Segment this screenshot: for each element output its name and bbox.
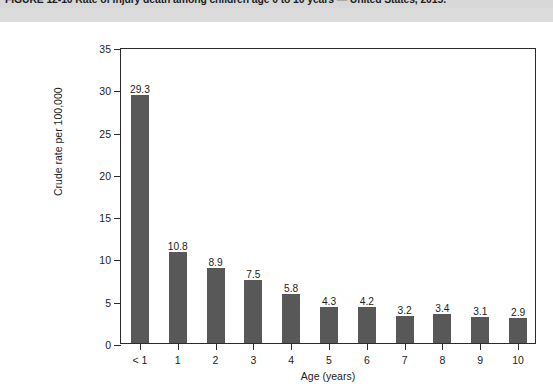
y-axis-tick bbox=[114, 260, 121, 261]
bar-value-label: 3.1 bbox=[473, 306, 487, 319]
x-axis-tick bbox=[367, 343, 368, 350]
y-axis-tick-label: 25 bbox=[99, 128, 111, 140]
bar-value-label: 3.2 bbox=[398, 305, 412, 318]
x-axis-tick bbox=[442, 343, 443, 350]
x-axis-tick bbox=[405, 343, 406, 350]
x-axis-title: Age (years) bbox=[120, 370, 536, 382]
figure-root: FIGURE 12-10 Rate of injury death among … bbox=[0, 0, 553, 389]
plot-frame: 0510152025303529.3< 110.818.927.535.844.… bbox=[120, 48, 536, 344]
y-axis-tick bbox=[114, 91, 121, 92]
bar-value-label: 3.4 bbox=[435, 303, 449, 316]
x-axis-tick-label: 9 bbox=[477, 354, 483, 366]
x-axis-tick bbox=[253, 343, 254, 350]
y-axis-tick bbox=[114, 303, 121, 304]
y-axis-tick bbox=[114, 49, 121, 50]
bar bbox=[207, 268, 225, 343]
bar bbox=[282, 294, 300, 343]
bar bbox=[244, 280, 262, 343]
x-axis-tick-label: 6 bbox=[364, 354, 370, 366]
x-axis-tick-label: 1 bbox=[175, 354, 181, 366]
y-axis-title: Crude rate per 100,000 bbox=[52, 87, 64, 196]
x-axis-tick bbox=[291, 343, 292, 350]
bar bbox=[169, 252, 187, 343]
bar bbox=[509, 318, 527, 343]
x-axis-tick-label: 5 bbox=[326, 354, 332, 366]
bar-value-label: 10.8 bbox=[168, 241, 188, 254]
bar-value-label: 8.9 bbox=[208, 257, 222, 270]
x-axis-tick-label: 10 bbox=[512, 354, 524, 366]
x-axis-tick-label: 7 bbox=[402, 354, 408, 366]
bar-value-label: 4.2 bbox=[360, 296, 374, 309]
bar bbox=[433, 314, 451, 343]
y-axis-tick-label: 0 bbox=[105, 339, 111, 351]
bar bbox=[396, 316, 414, 343]
y-axis-tick bbox=[114, 345, 121, 346]
x-axis-tick-label: 8 bbox=[440, 354, 446, 366]
figure-header-band: FIGURE 12-10 Rate of injury death among … bbox=[0, 0, 553, 22]
x-axis-tick-label: 2 bbox=[213, 354, 219, 366]
y-axis-tick-label: 10 bbox=[99, 254, 111, 266]
bar-value-label: 29.3 bbox=[130, 84, 150, 97]
x-axis-tick bbox=[518, 343, 519, 350]
bar bbox=[131, 95, 149, 343]
x-axis-tick-label: 4 bbox=[288, 354, 294, 366]
y-axis-tick bbox=[114, 176, 121, 177]
bar bbox=[358, 307, 376, 343]
y-axis-tick-label: 30 bbox=[99, 85, 111, 97]
x-axis-tick-label: 3 bbox=[250, 354, 256, 366]
bar bbox=[320, 307, 338, 343]
x-axis-tick bbox=[140, 343, 141, 350]
plot-area: 0510152025303529.3< 110.818.927.535.844.… bbox=[121, 49, 535, 343]
y-axis-tick-label: 35 bbox=[99, 43, 111, 55]
bar-value-label: 5.8 bbox=[284, 283, 298, 296]
y-axis-tick-label: 15 bbox=[99, 212, 111, 224]
y-axis-tick bbox=[114, 134, 121, 135]
bar-value-label: 7.5 bbox=[246, 269, 260, 282]
y-axis-tick-label: 20 bbox=[99, 170, 111, 182]
y-axis-tick bbox=[114, 218, 121, 219]
figure-header-band-shade bbox=[0, 8, 553, 22]
bar-value-label: 2.9 bbox=[511, 307, 525, 320]
x-axis-tick-label: < 1 bbox=[132, 354, 147, 366]
bar-value-label: 4.3 bbox=[322, 296, 336, 309]
y-axis-tick-label: 5 bbox=[105, 297, 111, 309]
x-axis-tick bbox=[329, 343, 330, 350]
x-axis-tick bbox=[480, 343, 481, 350]
bar bbox=[471, 317, 489, 343]
x-axis-tick bbox=[216, 343, 217, 350]
figure-title: FIGURE 12-10 Rate of injury death among … bbox=[5, 0, 550, 9]
x-axis-tick bbox=[178, 343, 179, 350]
